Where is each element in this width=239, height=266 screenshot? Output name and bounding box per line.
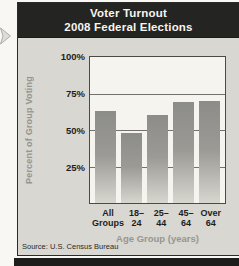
bar-slot [170, 57, 196, 203]
bar-slot [119, 57, 145, 203]
x-tick-slot: All Groups [92, 208, 124, 228]
x-tick-45–64: 45–64 [174, 208, 199, 228]
x-tick-slot: 18–24 [124, 208, 149, 228]
x-tick-25–44: 25–44 [149, 208, 174, 228]
bar-slot [93, 57, 119, 203]
bars-container [90, 57, 225, 203]
y-axis-title: Percent of Group Voting [24, 56, 34, 204]
bar-All Groups [95, 111, 116, 203]
x-tick-slot: 45–64 [174, 208, 199, 228]
figure-title: Voter Turnout 2008 Federal Elections [18, 3, 239, 38]
figure-title-line2: 2008 Federal Elections [18, 20, 239, 34]
x-tick-18–24: 18–24 [124, 208, 149, 228]
plot-area [89, 56, 226, 204]
bar-45–64 [173, 102, 194, 203]
x-tick-Over 64: Over 64 [200, 208, 221, 228]
margin-arrow-icon [0, 27, 12, 45]
x-tick-slot: 25–44 [149, 208, 174, 228]
bar-slot [196, 57, 222, 203]
y-tick-50: 50% [66, 125, 85, 136]
figure-title-line1: Voter Turnout [18, 6, 239, 20]
y-axis-tick-labels: 100%75%50%25% [52, 56, 85, 204]
chart-area: Percent of Group Voting 100%75%50%25% Al… [18, 38, 239, 253]
bar-18–24 [121, 133, 142, 203]
page-background: Voter Turnout 2008 Federal Elections Per… [0, 0, 239, 266]
bar-25–44 [147, 115, 168, 203]
figure-card: Voter Turnout 2008 Federal Elections Per… [17, 2, 239, 256]
bar-Over 64 [199, 101, 220, 203]
y-tick-100: 100% [61, 51, 85, 62]
x-tick-slot: Over 64 [198, 208, 223, 228]
y-tick-75: 75% [66, 88, 85, 99]
y-tick-25: 25% [66, 162, 85, 173]
source-note: Source: U.S. Census Bureau [22, 242, 118, 251]
x-tick-All Groups: All Groups [92, 208, 124, 228]
x-axis-tick-labels: All Groups18–2425–4445–64Over 64 [89, 208, 226, 228]
bar-slot [145, 57, 171, 203]
bottom-rule [14, 258, 239, 266]
